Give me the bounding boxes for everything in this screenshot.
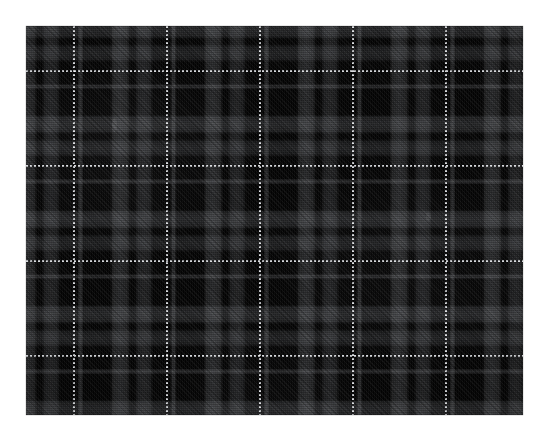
image-alt-text: Close-up photograph of black plaid tarta… [0,0,1,1]
fabric-swatch-image [26,26,523,415]
horizontal-overcheck-line-3 [26,355,523,357]
horizontal-overcheck-line-0 [26,70,523,72]
fabric-fleck-2 [238,326,241,331]
horizontal-overcheck-line-2 [26,260,523,262]
fabric-fleck-0 [112,118,117,132]
horizontal-overcheck-line-1 [26,165,523,167]
fabric-fleck-1 [426,212,431,221]
fabric-swatch-screenshot: Close-up photograph of black plaid tarta… [0,0,550,439]
fabric-fleck-3 [344,138,347,142]
